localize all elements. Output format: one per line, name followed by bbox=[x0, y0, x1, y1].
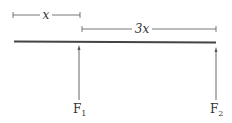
beam-diagram: x 3x F1 F2 bbox=[0, 0, 232, 123]
force-label-f1: F1 bbox=[73, 102, 86, 118]
force-arrow-f2 bbox=[215, 47, 218, 100]
force-arrow-f1 bbox=[78, 45, 81, 100]
force-label-f2: F2 bbox=[210, 102, 223, 118]
beam bbox=[14, 42, 216, 43]
dimension-x-label: x bbox=[43, 8, 50, 22]
dimension-3x-label: 3x bbox=[135, 22, 150, 36]
